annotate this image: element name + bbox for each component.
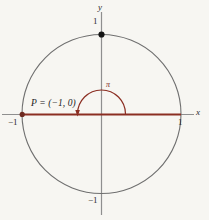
tick-label-bottom: −1 [88,196,98,205]
x-axis-label: x [196,108,200,117]
tick-label-top: 1 [93,17,98,26]
y-axis-label: y [98,3,102,12]
tick-label-right: 1 [178,118,183,127]
top-point-marker [98,31,104,37]
unit-circle-figure: y x 1 1 −1 −1 π P = (−1, 0) [0,0,209,220]
tick-label-left: −1 [8,118,18,127]
terminal-point-marker [20,112,25,117]
terminal-point-label: P = (−1, 0) [31,99,76,109]
angle-label-pi: π [106,81,110,89]
unit-circle-canvas [0,0,209,220]
